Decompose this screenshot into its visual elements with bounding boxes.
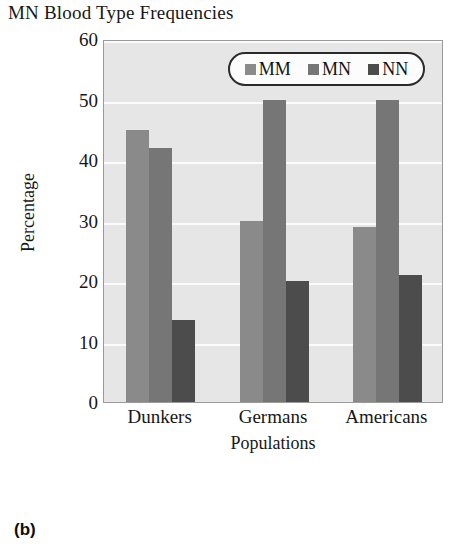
bar-germans-nn (286, 281, 309, 402)
y-tick-label: 0 (52, 393, 98, 412)
bar-group (353, 41, 422, 402)
x-tick-label: Germans (239, 406, 308, 428)
legend-swatch-icon (368, 64, 379, 75)
y-tick-label: 60 (52, 30, 98, 49)
y-axis-tick-labels: 0102030405060 (46, 0, 98, 559)
legend-item-mn: MN (308, 60, 351, 78)
legend-swatch-icon (308, 64, 319, 75)
chart-title: MN Blood Type Frequencies (8, 2, 234, 24)
legend-swatch-icon (245, 64, 256, 75)
bar-germans-mn (263, 100, 286, 403)
y-tick-label: 20 (52, 272, 98, 291)
figure-panel: MN Blood Type Frequencies Percentage 010… (0, 0, 462, 559)
bar-dunkers-nn (172, 320, 195, 402)
legend-item-nn: NN (368, 60, 408, 78)
bar-americans-mm (353, 227, 376, 402)
y-tick-label: 10 (52, 333, 98, 352)
bar-americans-mn (376, 100, 399, 403)
x-tick-label: Americans (345, 406, 427, 428)
bar-dunkers-mn (149, 148, 172, 402)
x-axis-label: Populations (103, 433, 443, 454)
y-axis-label: Percentage (18, 153, 39, 273)
bars-layer (104, 41, 442, 402)
x-axis-tick-labels: DunkersGermansAmericans (103, 406, 443, 432)
bar-dunkers-mm (126, 130, 149, 402)
legend-item-mm: MM (245, 60, 291, 78)
bar-group (240, 41, 309, 402)
bar-americans-nn (399, 275, 422, 402)
chart-legend: MMMNNN (228, 52, 425, 86)
legend-label: MN (322, 60, 351, 78)
legend-label: MM (259, 60, 291, 78)
bar-germans-mm (240, 221, 263, 403)
legend-label: NN (382, 60, 408, 78)
panel-caption: (b) (14, 520, 36, 540)
plot-area (103, 40, 443, 403)
x-tick-label: Dunkers (127, 406, 191, 428)
y-tick-label: 50 (52, 91, 98, 110)
y-tick-label: 30 (52, 212, 98, 231)
bar-group (126, 41, 195, 402)
y-tick-label: 40 (52, 151, 98, 170)
